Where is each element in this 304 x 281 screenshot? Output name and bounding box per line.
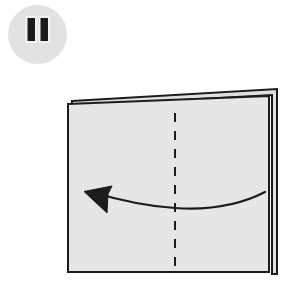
pause-bar-left (27, 17, 37, 42)
pause-bar-right (40, 17, 50, 42)
pause-button-background (8, 5, 67, 64)
front-sheet (68, 96, 269, 272)
pause-button[interactable] (7, 4, 68, 65)
diagram-canvas: Fold the sheet in half from right to lef… (0, 0, 304, 281)
